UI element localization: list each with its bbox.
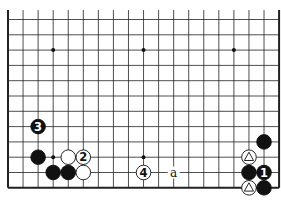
- white-stone: 4: [136, 165, 151, 180]
- grid-lines: [8, 10, 279, 188]
- black-stone: [61, 165, 76, 180]
- move-number: 3: [34, 120, 42, 134]
- black-stone: [46, 165, 61, 180]
- white-stone: [242, 150, 257, 165]
- white-stone: [242, 181, 257, 196]
- star-point: [142, 48, 146, 52]
- black-stone: [257, 135, 272, 150]
- star-point: [142, 155, 146, 159]
- move-number: 2: [79, 150, 87, 164]
- black-stone: 3: [31, 119, 46, 134]
- white-stone: 2: [76, 150, 91, 165]
- black-stone: [257, 181, 272, 196]
- white-stone: [76, 165, 91, 180]
- black-stone: [242, 165, 257, 180]
- black-stone: [31, 150, 46, 165]
- star-point: [51, 48, 55, 52]
- white-stone: [61, 150, 76, 165]
- point-label: a: [170, 166, 177, 180]
- go-board: a3241: [0, 0, 281, 202]
- move-number: 4: [140, 166, 148, 180]
- black-stone: 1: [257, 165, 272, 180]
- move-number: 1: [260, 166, 268, 180]
- star-point: [51, 155, 55, 159]
- star-point: [232, 48, 236, 52]
